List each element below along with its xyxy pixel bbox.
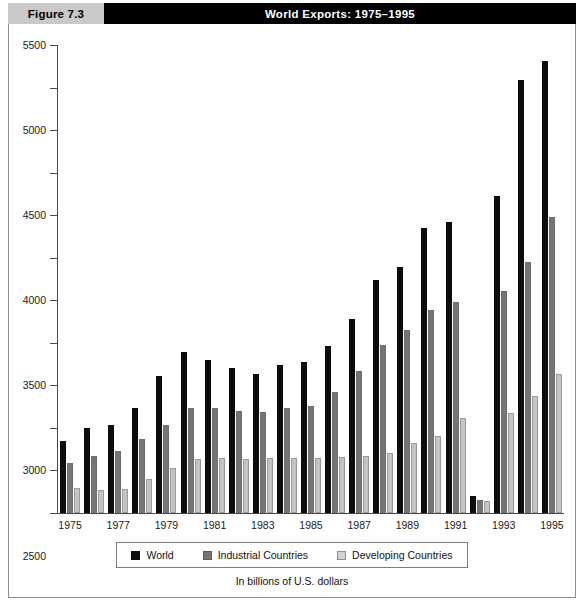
bar <box>387 453 393 513</box>
bar-group <box>325 45 345 513</box>
series-1-swatch <box>203 551 212 560</box>
bar <box>494 196 500 513</box>
x-axis-tick-label: 1975 <box>58 519 81 531</box>
bar-group <box>108 45 128 513</box>
bar-group <box>470 45 490 513</box>
bar <box>453 302 459 513</box>
bar <box>253 374 259 513</box>
bar-group <box>518 45 538 513</box>
legend-item-developing-countries: Developing Countries <box>337 549 452 561</box>
bar <box>74 488 80 513</box>
bar-group <box>181 45 201 513</box>
bar <box>332 392 338 513</box>
bar <box>146 479 152 513</box>
y-axis-tick-label: 3500 <box>23 379 46 391</box>
plot-area: 0500100015002000250030003500400045005000… <box>57 45 563 513</box>
legend-label-world: World <box>146 549 173 561</box>
bar-group <box>205 45 225 513</box>
bar <box>397 267 403 513</box>
bar <box>404 330 410 513</box>
bar-group <box>373 45 393 513</box>
bar <box>356 371 362 513</box>
bar <box>60 441 66 513</box>
bar <box>205 360 211 513</box>
bar <box>260 412 266 513</box>
legend-label-developing-countries: Developing Countries <box>352 549 452 561</box>
bar <box>315 458 321 513</box>
bar <box>325 346 331 513</box>
bar <box>108 425 114 513</box>
x-axis-line <box>57 513 564 514</box>
chart-legend: World Industrial Countries Developing Co… <box>116 542 468 568</box>
y-axis-tick: 500 <box>50 470 57 471</box>
bar <box>291 458 297 513</box>
y-axis-tick: 5500 <box>50 45 57 46</box>
bar <box>542 61 548 513</box>
bar-group <box>494 45 514 513</box>
x-axis-tick-label: 1987 <box>348 519 371 531</box>
bar-group <box>277 45 297 513</box>
y-axis-tick-label: 3000 <box>23 464 46 476</box>
x-axis-tick-label: 1977 <box>107 519 130 531</box>
bar <box>363 456 369 513</box>
bar <box>267 458 273 513</box>
y-axis-tick: 1500 <box>50 385 57 386</box>
bar <box>411 443 417 513</box>
y-axis-tick: 3000 <box>50 258 57 259</box>
bar <box>219 458 225 513</box>
bar-group <box>156 45 176 513</box>
bar-group <box>397 45 417 513</box>
bar <box>163 425 169 513</box>
bar <box>349 319 355 513</box>
series-2-swatch <box>337 551 346 560</box>
bar <box>67 463 73 513</box>
bar <box>188 408 194 514</box>
y-axis-tick: 4500 <box>50 130 57 131</box>
x-axis-tick-label: 1979 <box>155 519 178 531</box>
bar <box>170 468 176 513</box>
x-axis-tick-label: 1993 <box>492 519 515 531</box>
bar <box>518 80 524 513</box>
bar <box>277 365 283 513</box>
y-axis-tick: 0 <box>50 513 57 514</box>
figure-title: World Exports: 1975–1995 <box>104 3 576 24</box>
bar-group <box>132 45 152 513</box>
bar <box>435 436 441 513</box>
figure-container: Figure 7.3 World Exports: 1975–1995 0500… <box>0 0 584 605</box>
y-axis-tick: 2000 <box>50 343 57 344</box>
bar <box>195 459 201 513</box>
bar <box>477 500 483 513</box>
x-axis-tick-label: 1989 <box>396 519 419 531</box>
bar-group <box>301 45 321 513</box>
series-0-swatch <box>131 551 140 560</box>
legend-item-industrial-countries: Industrial Countries <box>203 549 308 561</box>
bar <box>549 217 555 513</box>
bar-group <box>542 45 562 513</box>
bar <box>212 408 218 514</box>
bar <box>139 439 145 513</box>
y-axis-tick: 3500 <box>50 215 57 216</box>
bar <box>243 459 249 513</box>
bar <box>460 418 466 513</box>
y-axis-tick: 4000 <box>50 173 57 174</box>
x-axis-tick-label: 1981 <box>203 519 226 531</box>
x-axis-tick-label: 1983 <box>251 519 274 531</box>
x-axis-tick-label: 1991 <box>444 519 467 531</box>
bar-group <box>421 45 441 513</box>
bar <box>508 413 514 513</box>
bar <box>556 374 562 513</box>
bar <box>428 310 434 513</box>
bar <box>373 280 379 513</box>
y-axis-tick: 5000 <box>50 88 57 89</box>
bar <box>98 490 104 513</box>
bar <box>421 228 427 513</box>
bar <box>380 345 386 513</box>
bar <box>470 496 476 513</box>
bar <box>115 451 121 513</box>
x-axis-tick-label: 1985 <box>299 519 322 531</box>
x-axis-tick-label: 1995 <box>540 519 563 531</box>
bar <box>301 362 307 513</box>
bar-group <box>349 45 369 513</box>
bar-group <box>253 45 273 513</box>
figure-header: Figure 7.3 World Exports: 1975–1995 <box>8 3 576 24</box>
